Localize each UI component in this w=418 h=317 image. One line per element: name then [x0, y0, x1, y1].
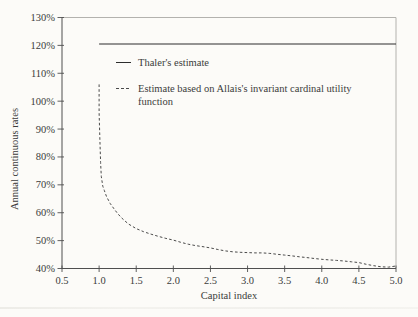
- scan-artifact-streak: [0, 307, 418, 309]
- x-tick-label: 4.0: [315, 275, 328, 286]
- y-tick-label: 40%: [36, 263, 56, 274]
- solid-line-swatch-icon: [116, 62, 131, 63]
- y-tick-label: 70%: [36, 179, 56, 190]
- chart-figure: 0.51.01.52.02.53.03.54.04.55.040%50%60%7…: [0, 0, 418, 317]
- legend-item-allais: Estimate based on Allais's invariant car…: [116, 82, 356, 108]
- x-tick-label: 2.5: [204, 275, 217, 286]
- x-tick-label: 4.5: [352, 275, 365, 286]
- plot-area: 0.51.01.52.02.53.03.54.04.55.040%50%60%7…: [0, 0, 418, 317]
- y-tick-label: 80%: [36, 151, 56, 162]
- x-tick-label: 3.0: [241, 275, 254, 286]
- x-tick-label: 5.0: [389, 275, 402, 286]
- y-tick-label: 100%: [31, 96, 56, 107]
- x-tick-label: 0.5: [55, 275, 68, 286]
- x-axis-label: Capital index: [62, 290, 396, 301]
- legend: Thaler's estimate Estimate based on Alla…: [116, 56, 356, 121]
- x-tick-label: 1.0: [93, 275, 106, 286]
- legend-item-thaler: Thaler's estimate: [116, 56, 356, 69]
- x-tick-label: 2.0: [167, 275, 180, 286]
- y-tick-label: 90%: [36, 124, 56, 135]
- y-tick-label: 50%: [36, 235, 56, 246]
- dashed-line-swatch-icon: [116, 88, 131, 89]
- y-tick-label: 130%: [31, 12, 56, 23]
- y-tick-label: 60%: [36, 207, 56, 218]
- x-tick-label: 1.5: [130, 275, 143, 286]
- y-tick-label: 110%: [31, 68, 55, 79]
- y-axis-label: Annual continuous rates: [9, 108, 20, 210]
- y-tick-label: 120%: [31, 40, 56, 51]
- legend-label-allais: Estimate based on Allais's invariant car…: [138, 82, 356, 108]
- x-tick-label: 3.5: [278, 275, 291, 286]
- legend-label-thaler: Thaler's estimate: [138, 56, 209, 69]
